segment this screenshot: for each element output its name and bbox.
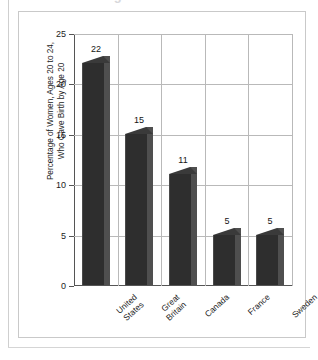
bar-value-label: 22 — [91, 44, 101, 54]
y-axis-tick-label: 10 — [56, 180, 66, 190]
page-bottom-rule — [8, 347, 310, 348]
bar-top-face — [256, 228, 284, 235]
y-axis-tick — [69, 135, 74, 136]
bar: 11 — [169, 167, 197, 285]
y-axis-tick-label: 25 — [56, 29, 66, 39]
bar-front-face — [213, 235, 235, 285]
bar-front-face — [169, 174, 191, 285]
figure-card: Percentage of Women, Ages 20 to 24, Who … — [18, 11, 306, 338]
bar-front-face — [256, 235, 278, 285]
x-axis-category-label: UnitedStates — [114, 292, 145, 323]
bar-top-face — [82, 56, 110, 63]
y-axis-tick — [69, 185, 74, 186]
bar: 15 — [125, 127, 153, 285]
x-axis-category-label-line: Canada — [203, 292, 231, 319]
clipped-page-heading-text: Births to Teenagers — [14, 0, 264, 3]
bar-side-face — [190, 167, 197, 285]
bar-side-face — [234, 228, 241, 285]
bar: 5 — [256, 228, 284, 285]
bar-top-face — [213, 228, 241, 235]
x-axis-category-label: Canada — [203, 292, 231, 319]
gridline-vertical — [161, 34, 162, 286]
y-axis-tick — [69, 34, 74, 35]
bar-value-label: 5 — [224, 216, 229, 226]
y-axis-tick-label: 5 — [61, 231, 66, 241]
y-axis-tick-label: 0 — [61, 281, 66, 291]
x-axis-category-label: Sweden — [290, 292, 318, 320]
y-axis-line — [74, 34, 75, 286]
bar-top-face — [169, 167, 197, 174]
bar-side-face — [277, 228, 284, 285]
bar-front-face — [82, 63, 104, 285]
gridline-vertical — [292, 34, 293, 286]
x-axis-category-label: GreatBritain — [157, 292, 188, 323]
y-axis-title-line-1: Percentage of Women, Ages 20 to 24, — [45, 11, 56, 211]
y-axis-tick — [69, 236, 74, 237]
x-axis-line — [74, 285, 292, 286]
gridline-vertical — [205, 34, 206, 286]
bar-front-face — [125, 134, 147, 285]
page-margin-rule — [8, 0, 9, 348]
y-axis-tick — [69, 286, 74, 287]
x-axis-category-label-line: France — [246, 292, 272, 317]
bar-value-label: 11 — [178, 155, 187, 165]
gridline-vertical — [248, 34, 249, 286]
x-axis-category-label: France — [246, 292, 272, 317]
bar-value-label: 5 — [267, 216, 272, 226]
y-axis-tick-label: 20 — [56, 79, 66, 89]
gridline-vertical — [118, 34, 119, 286]
bar-side-face — [103, 56, 110, 285]
gridline-horizontal — [74, 34, 292, 35]
plot-area: 0510152025 22151155 UnitedStatesGreatBri… — [74, 34, 292, 286]
bar-side-face — [146, 127, 153, 285]
bar: 5 — [213, 228, 241, 285]
x-axis-category-label-line: Sweden — [290, 292, 318, 320]
bar: 22 — [82, 56, 110, 285]
bar-top-face — [125, 127, 153, 134]
y-axis-tick — [69, 84, 74, 85]
clipped-page-heading: Births to Teenagers — [14, 0, 264, 3]
bar-value-label: 15 — [134, 115, 144, 125]
y-axis-tick-label: 15 — [56, 130, 66, 140]
